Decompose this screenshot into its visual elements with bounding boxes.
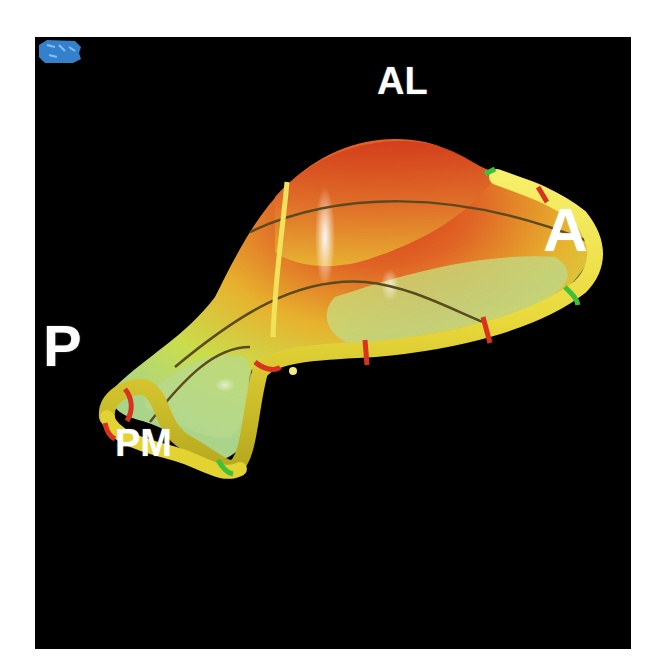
- orientation-cube-icon: [35, 37, 83, 65]
- render-viewport: AL A P PM: [35, 37, 631, 649]
- label-anterolateral: AL: [377, 62, 428, 100]
- label-posteromedial: PM: [115, 424, 172, 462]
- specular-highlight: [315, 187, 335, 287]
- mitral-valve-render: [35, 37, 631, 649]
- commissure-nub: [289, 367, 297, 375]
- label-anterior: A: [543, 199, 588, 261]
- specular-highlight: [215, 378, 235, 392]
- label-posterior: P: [43, 317, 82, 375]
